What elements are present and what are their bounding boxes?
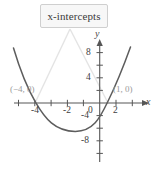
graph-figure: x-intercepts x y -4 -2 0 2 8 4 -4 -8 (−4…	[0, 0, 163, 169]
y-axis-label: y	[95, 28, 99, 39]
x-tick-label--4: -4	[31, 105, 39, 115]
y-tick-label--8: -8	[81, 135, 89, 145]
x-tick-label--2: -2	[63, 105, 71, 115]
y-tick-label-8: 8	[86, 47, 91, 57]
y-axis	[97, 39, 103, 162]
y-tick-label--4: -4	[81, 110, 89, 120]
y-tick-label-4: 4	[86, 72, 91, 82]
x-tick-label-2: 2	[113, 105, 118, 115]
x-axis-label: x	[146, 96, 150, 107]
point-label-right-intercept: (1, 0)	[113, 84, 133, 94]
x-intercepts-callout: x-intercepts	[40, 4, 108, 28]
point-label-left-intercept: (−4, 0)	[10, 84, 35, 94]
x-intercepts-callout-label: x-intercepts	[47, 10, 100, 22]
